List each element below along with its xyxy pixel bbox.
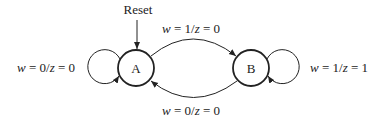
state-b: B — [233, 50, 269, 86]
label-b-to-a: w = 0/z = 0 — [162, 103, 220, 118]
label-b-self: w = 1/z = 1 — [310, 60, 368, 75]
state-diagram: Reset A B w = 0/z = 0 w = 1/z = 0 w = 0/… — [0, 0, 388, 122]
label-a-self: w = 0/z = 0 — [17, 60, 75, 75]
self-loop-b — [267, 50, 299, 84]
state-b-label: B — [247, 61, 256, 76]
state-a-label: A — [131, 61, 141, 76]
transition-a-to-b — [151, 39, 236, 56]
reset-label: Reset — [124, 2, 153, 17]
label-a-to-b: w = 1/z = 0 — [162, 21, 220, 36]
state-a: A — [118, 50, 154, 86]
self-loop-a — [88, 50, 120, 84]
transition-b-to-a — [151, 81, 237, 98]
